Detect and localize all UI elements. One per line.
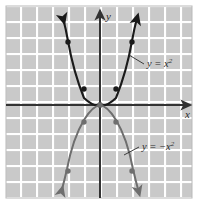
point-marker [65, 168, 70, 173]
point-marker [81, 86, 86, 91]
parabola-figure: y x y = x2 y = −x2 [0, 0, 200, 209]
point-marker [129, 39, 134, 44]
point-marker [65, 39, 70, 44]
lower-curve-label-exponent: 2 [171, 140, 175, 148]
upper-curve-label-text: y = x [146, 58, 169, 69]
point-marker [113, 86, 118, 91]
point-marker [113, 119, 118, 124]
point-marker [97, 102, 102, 107]
lower-curve-label: y = −x2 [141, 140, 175, 152]
lower-curve-label-text: y = −x [141, 141, 171, 152]
point-marker [129, 168, 134, 173]
graph-canvas: y x y = x2 y = −x2 [0, 0, 200, 209]
point-marker [81, 119, 86, 124]
upper-curve-label-exponent: 2 [169, 57, 173, 65]
y-axis-label: y [105, 10, 111, 22]
x-axis-label: x [184, 108, 190, 120]
